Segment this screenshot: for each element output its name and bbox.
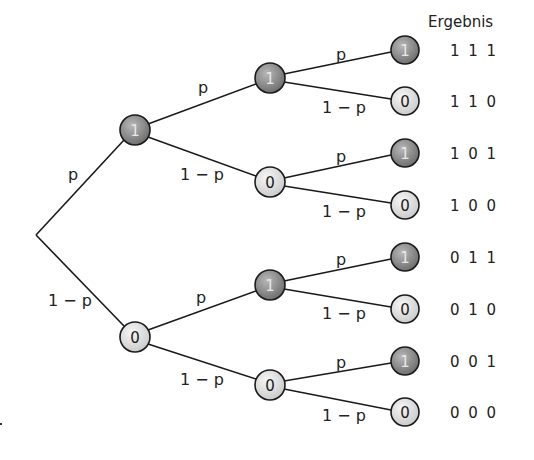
edge-label-1-minus-p: 1 − p [322, 202, 366, 221]
node-level1-0: 0 [120, 322, 150, 352]
svg-text:1: 1 [400, 42, 410, 60]
leaf-node-111: 1 [391, 36, 419, 64]
edge-label-p: p [336, 147, 346, 166]
svg-text:0: 0 [400, 93, 410, 111]
result-100: 1 0 0 [450, 197, 498, 215]
probability-tree-diagram: Ergebnis p 1 − p p 1 − p p 1 − p p 1 − p… [0, 0, 534, 460]
edge-label-1-minus-p: 1 − p [322, 304, 366, 323]
edge-10-to-100 [284, 186, 391, 203]
edge-11-to-110 [284, 82, 391, 99]
edge-label-1-minus-p: 1 − p [322, 98, 366, 117]
node-level2-10: 0 [255, 167, 285, 197]
svg-text:0: 0 [130, 329, 140, 347]
leaf-node-101: 1 [391, 139, 419, 167]
result-000: 0 0 0 [450, 404, 498, 422]
edge-artifact-dot [0, 423, 2, 425]
result-column-header: Ergebnis [428, 13, 493, 31]
svg-text:1: 1 [400, 353, 410, 371]
edge-root-to-0 [36, 235, 124, 326]
node-level2-11: 1 [255, 63, 285, 93]
svg-text:0: 0 [400, 404, 410, 422]
svg-text:1: 1 [400, 145, 410, 163]
svg-text:0: 0 [265, 174, 275, 192]
svg-text:1: 1 [400, 249, 410, 267]
svg-text:0: 0 [400, 301, 410, 319]
result-010: 0 1 0 [450, 301, 498, 319]
leaf-node-011: 1 [391, 243, 419, 271]
edge-label-1-minus-p: 1 − p [180, 370, 224, 389]
svg-text:0: 0 [400, 197, 410, 215]
edge-label-1-minus-p: 1 − p [180, 165, 224, 184]
edge-label-1-minus-p: 1 − p [322, 406, 366, 425]
edge-label-p: p [198, 78, 208, 97]
node-level2-01: 1 [255, 270, 285, 300]
edge-label-p: p [336, 250, 346, 269]
result-column: 1 1 1 1 1 0 1 0 1 1 0 0 0 1 1 0 1 0 0 0 … [450, 42, 498, 422]
svg-text:0: 0 [265, 377, 275, 395]
svg-text:1: 1 [265, 70, 275, 88]
result-111: 1 1 1 [450, 42, 498, 60]
svg-text:1: 1 [265, 277, 275, 295]
svg-text:1: 1 [130, 122, 140, 140]
node-level2-00: 0 [255, 370, 285, 400]
leaf-node-001: 1 [391, 347, 419, 375]
edge-label-p: p [336, 353, 346, 372]
result-001: 0 0 1 [450, 353, 498, 371]
edge-label-p: p [68, 165, 78, 184]
result-011: 0 1 1 [450, 249, 498, 267]
result-101: 1 0 1 [450, 145, 498, 163]
leaf-node-000: 0 [391, 398, 419, 426]
leaf-node-100: 0 [391, 191, 419, 219]
leaf-node-110: 0 [391, 87, 419, 115]
edge-root-to-1 [36, 140, 124, 235]
edge-label-p: p [336, 45, 346, 64]
node-level1-1: 1 [120, 115, 150, 145]
edge-label-p: p [196, 288, 206, 307]
leaf-node-010: 0 [391, 295, 419, 323]
edge-label-1-minus-p: 1 − p [48, 291, 92, 310]
result-110: 1 1 0 [450, 93, 498, 111]
